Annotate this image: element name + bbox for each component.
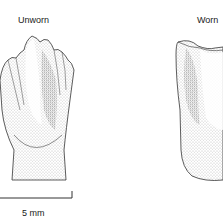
worn-tooth-drawing <box>176 41 223 181</box>
scale-bar <box>0 191 72 198</box>
worn-label: Worn <box>197 15 218 25</box>
unworn-label: Unworn <box>18 15 49 25</box>
unworn-tooth-drawing <box>0 36 74 180</box>
scale-bar-label: 5 mm <box>22 208 45 218</box>
tooth-illustration <box>0 0 223 224</box>
